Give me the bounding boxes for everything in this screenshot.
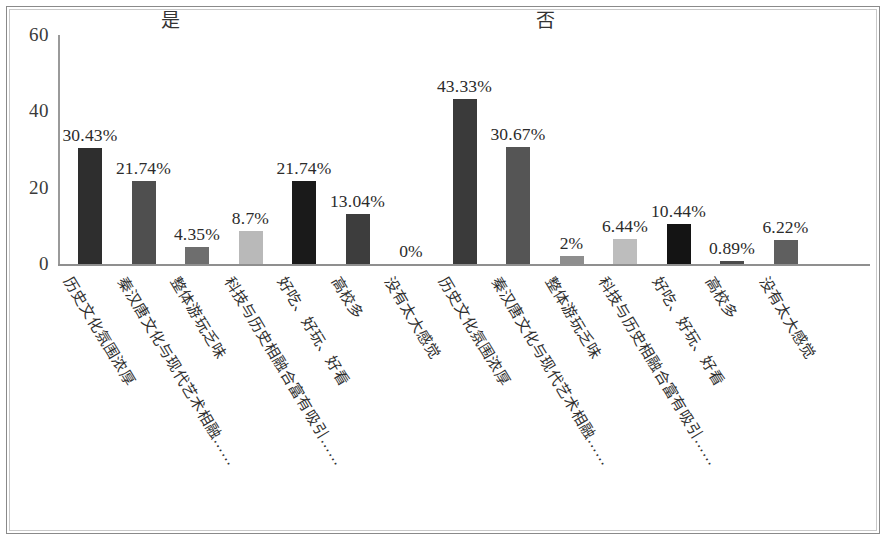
chart-page: 6040200 是否 30.43%21.74%4.35%8.7%21.74%13…	[0, 0, 888, 542]
y-tick-0: 0	[39, 253, 49, 275]
bar-value-label: 2%	[560, 233, 584, 254]
bar	[453, 99, 477, 264]
bar	[560, 256, 584, 264]
y-tick-40: 40	[29, 100, 49, 122]
group-title-no: 否	[536, 5, 555, 32]
bar-value-label: 13.04%	[330, 191, 385, 212]
bar	[506, 147, 530, 264]
bar-value-label: 0%	[399, 241, 423, 262]
bar	[292, 181, 316, 264]
bar	[613, 239, 637, 264]
bar-value-label: 4.35%	[174, 224, 220, 245]
plot-area: 6040200 是否 30.43%21.74%4.35%8.7%21.74%13…	[58, 35, 870, 266]
bar	[185, 247, 209, 264]
bar-value-label: 6.22%	[762, 217, 808, 238]
bar	[346, 214, 370, 264]
bar	[78, 148, 102, 264]
y-axis-line	[58, 35, 60, 266]
bar	[239, 231, 263, 264]
bar-value-label: 21.74%	[276, 158, 331, 179]
bar-value-label: 6.44%	[602, 216, 648, 237]
bar	[774, 240, 798, 264]
y-tick-60: 60	[29, 24, 49, 46]
bar	[720, 261, 744, 264]
bar-value-label: 21.74%	[116, 158, 171, 179]
bar	[132, 181, 156, 264]
y-tick-20: 20	[29, 177, 49, 199]
group-title-yes: 是	[161, 5, 180, 32]
bar	[667, 224, 691, 264]
bar-value-label: 10.44%	[651, 201, 706, 222]
bar-value-label: 43.33%	[437, 76, 492, 97]
bar-value-label: 30.67%	[490, 124, 545, 145]
bar-value-label: 30.43%	[62, 125, 117, 146]
x-axis-line	[58, 264, 870, 266]
bar-value-label: 8.7%	[232, 208, 269, 229]
bar-value-label: 0.89%	[709, 238, 755, 259]
